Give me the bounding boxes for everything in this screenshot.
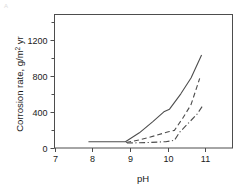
- series-curve-solid-upper: [88, 55, 201, 142]
- x-axis-tick-marks: [56, 148, 206, 152]
- x-tick-label: 8: [90, 154, 95, 164]
- x-tick-label: 7: [53, 154, 58, 164]
- y-axis-title: Corrosion rate, g/m2 yr: [14, 36, 25, 132]
- y-tick-label: 1200: [27, 36, 47, 46]
- y-axis-title-suffix: yr: [14, 36, 25, 47]
- series-curve-dashed-middle: [126, 78, 200, 142]
- data-series-group: [88, 55, 203, 143]
- x-tick-label: 9: [128, 154, 133, 164]
- series-curve-dashdot-lower: [127, 105, 204, 143]
- corrosion-rate-line-chart: A 7891011 04008001200 pH Corrosion rate,…: [0, 0, 247, 192]
- plot-frame: [55, 15, 233, 149]
- y-tick-label: 800: [32, 72, 47, 82]
- y-axis-title-prefix: Corrosion rate, g/m: [14, 50, 25, 131]
- x-tick-label: 11: [201, 154, 210, 164]
- corner-mark: A: [4, 3, 8, 9]
- y-tick-label: 400: [32, 108, 47, 118]
- x-axis-title: pH: [137, 173, 149, 184]
- x-tick-label: 10: [163, 154, 173, 164]
- y-axis-tick-marks: [51, 23, 55, 149]
- y-axis-tick-labels: 04008001200: [27, 36, 47, 154]
- y-tick-label: 0: [42, 144, 47, 154]
- x-axis-tick-labels: 7891011: [53, 154, 210, 164]
- figure-container: A 7891011 04008001200 pH Corrosion rate,…: [0, 0, 247, 192]
